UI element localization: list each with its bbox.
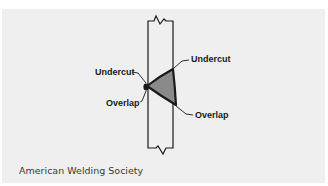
label-undercut-right: Undercut — [191, 54, 231, 64]
overlap-left-blob — [143, 84, 148, 91]
leader-undercut-right — [174, 60, 189, 68]
label-overlap-right: Overlap — [195, 110, 229, 120]
weld-diagram — [0, 0, 328, 186]
label-undercut-left: Undercut — [95, 67, 135, 77]
weld-bead — [147, 69, 176, 105]
label-overlap-left: Overlap — [106, 98, 140, 108]
leader-overlap-left — [140, 91, 146, 102]
figure-caption: American Welding Society — [19, 165, 143, 176]
leader-overlap-right — [176, 106, 193, 115]
